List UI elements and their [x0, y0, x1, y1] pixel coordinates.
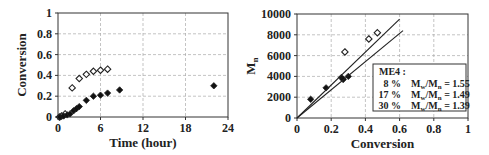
filled-diamond-marker — [116, 87, 122, 93]
x-tick-label: 6 — [98, 121, 104, 135]
y-axis-label: Conversion — [14, 32, 29, 96]
y-tick-label: 0 — [285, 111, 291, 125]
y-tick-label: 6000 — [267, 49, 291, 63]
legend-percent: 17 % — [379, 89, 402, 100]
y-tick-label: 4000 — [267, 69, 291, 83]
x-tick-label: 0.6 — [392, 122, 407, 136]
open-diamond-marker — [104, 66, 110, 72]
y-tick-label: 2000 — [267, 90, 291, 104]
y-tick-label: 0.4 — [37, 68, 52, 82]
x-tick-label: 12 — [137, 121, 149, 135]
open-diamond-marker — [76, 75, 82, 81]
x-tick-label: 0 — [55, 121, 61, 135]
y-tick-label: 0.6 — [37, 48, 52, 62]
y-axis-label: Mn — [243, 57, 260, 74]
x-tick-label: 0.8 — [426, 122, 441, 136]
conversion-mn-plot: 00.20.40.60.810200040006000800010000Conv… — [243, 7, 471, 151]
x-tick-label: 0 — [294, 122, 300, 136]
open-diamond-marker — [342, 49, 348, 55]
x-tick-label: 0.2 — [324, 122, 339, 136]
open-diamond-marker — [97, 67, 103, 73]
y-tick-label: 0.2 — [37, 89, 52, 103]
filled-diamond-marker — [90, 93, 96, 99]
filled-diamond-marker — [97, 92, 103, 98]
x-tick-label: 18 — [180, 121, 192, 135]
open-diamond-marker — [69, 85, 75, 91]
legend-percent: 8 % — [384, 78, 402, 89]
x-tick-label: 1 — [465, 122, 471, 136]
legend-box: ME4 :8 %Mw/Mn = 1.5517 %Mw/Mn = 1.4930 %… — [373, 64, 470, 113]
x-tick-label: 0.4 — [358, 122, 373, 136]
y-tick-label: 0.8 — [37, 27, 52, 41]
figure: 0612182400.20.40.60.81Time (hour)Convers… — [0, 0, 489, 155]
open-diamond-marker — [90, 68, 96, 74]
y-tick-label: 1 — [46, 6, 52, 20]
filled-diamond-marker — [104, 90, 110, 96]
x-tick-label: 24 — [222, 121, 234, 135]
open-diamond-marker — [366, 36, 372, 42]
legend-percent: 30 % — [379, 100, 402, 111]
time-conversion-plot: 0612182400.20.40.60.81Time (hour)Convers… — [14, 6, 234, 150]
filled-diamond-marker — [211, 83, 217, 89]
x-axis-label: Conversion — [351, 136, 415, 151]
filled-diamond-marker — [83, 97, 89, 103]
y-tick-label: 0 — [46, 110, 52, 124]
open-diamond-marker — [83, 71, 89, 77]
y-tick-label: 8000 — [267, 28, 291, 42]
legend-title: ME4 : — [379, 66, 406, 77]
x-axis-label: Time (hour) — [109, 135, 176, 150]
y-tick-label: 10000 — [261, 7, 291, 21]
